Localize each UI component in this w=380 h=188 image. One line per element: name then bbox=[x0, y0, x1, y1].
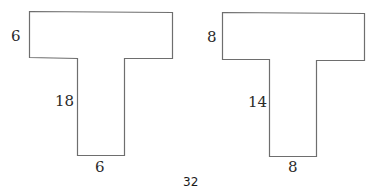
right-stem-width-label: 8 bbox=[288, 158, 298, 176]
left-t-outline bbox=[30, 12, 173, 156]
left-stem-width-label: 6 bbox=[95, 158, 105, 176]
figure-caption-number: 32 bbox=[183, 175, 198, 188]
right-stem-height-label: 14 bbox=[248, 93, 267, 111]
right-t-figure: 8 14 8 bbox=[207, 13, 365, 177]
right-t-outline bbox=[223, 13, 365, 157]
right-top-bar-height-label: 8 bbox=[207, 28, 217, 46]
left-top-bar-height-label: 6 bbox=[11, 27, 21, 45]
left-t-figure: 6 18 6 bbox=[11, 12, 173, 177]
left-stem-height-label: 18 bbox=[55, 92, 74, 110]
diagram-canvas: 6 18 6 8 14 8 32 bbox=[0, 0, 380, 188]
